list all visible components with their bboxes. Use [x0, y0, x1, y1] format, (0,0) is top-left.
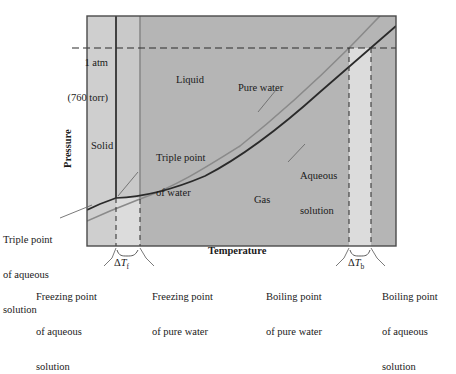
region-label-liquid: Liquid [176, 74, 204, 86]
annotation-triple-point-water: Triple point of water [156, 128, 206, 222]
annotation-freezing-point-pure: Freezing point of pure water [152, 267, 213, 361]
pressure-marker-label: 1 atm (760 torr) [45, 33, 108, 127]
delta-tf-label: ΔTf [114, 257, 129, 272]
delta-tb-brace [350, 250, 370, 256]
boiling-aqueous-callout-tick [371, 248, 385, 266]
delta-tf-band [116, 198, 140, 246]
freezing-pure-line1: Freezing point [152, 291, 213, 303]
torr-value: (760 torr) [45, 92, 108, 104]
one-atm-value: 1 atm [45, 57, 108, 69]
curve-label-pure-water: Pure water [238, 82, 283, 94]
region-label-gas: Gas [254, 194, 270, 206]
aqueous-label-line2: solution [300, 205, 337, 217]
curve-label-aqueous-solution: Aqueous solution [300, 146, 337, 240]
freezing-pure-line2: of pure water [152, 326, 213, 338]
delta-tf-subscript: f [127, 262, 130, 271]
region-label-solid: Solid [91, 140, 113, 152]
freezing-aqueous-line2: of aqueous [36, 326, 97, 338]
plot-regions [87, 16, 396, 246]
y-axis-title: Pressure [62, 129, 73, 168]
x-axis-title: Temperature [208, 245, 266, 257]
boiling-aqueous-line1: Boiling point [382, 291, 438, 303]
boiling-aqueous-line3: solution [382, 361, 438, 373]
aqueous-label-line1: Aqueous [300, 170, 337, 182]
freezing-pure-callout-tick [140, 248, 154, 266]
delta-tb-label: ΔTb [348, 257, 364, 272]
boiling-aqueous-line2: of aqueous [382, 326, 438, 338]
annotation-boiling-point-pure: Boiling point of pure water [266, 267, 322, 361]
delta-tb-subscript: b [361, 262, 365, 271]
triple-point-aqueous-line1: Triple point [3, 234, 53, 246]
triple-point-water-line1: Triple point [156, 152, 206, 164]
delta-tf-delta: Δ [114, 257, 121, 268]
boiling-pure-line2: of pure water [266, 326, 322, 338]
delta-tb-band [349, 48, 371, 246]
annotation-boiling-point-aqueous: Boiling point of aqueous solution [382, 267, 438, 374]
boiling-pure-line1: Boiling point [266, 291, 322, 303]
freezing-aqueous-line1: Freezing point [36, 291, 97, 303]
delta-tf-brace [117, 250, 138, 256]
delta-tb-delta: Δ [348, 257, 355, 268]
annotation-freezing-point-aqueous: Freezing point of aqueous solution [36, 267, 97, 374]
freezing-aqueous-line3: solution [36, 361, 97, 373]
triple-point-water-line2: of water [156, 187, 206, 199]
